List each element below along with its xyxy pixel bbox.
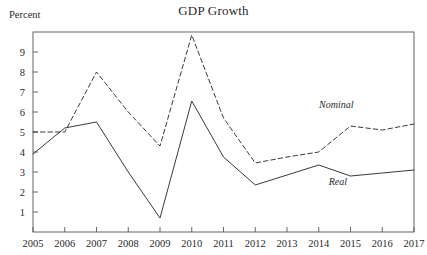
y-tick-label: 9 (20, 47, 25, 58)
chart-plot-area: 123456789 200520062007200820092010201120… (0, 0, 427, 255)
y-tick-label: 2 (20, 187, 25, 198)
x-tick-label: 2016 (372, 238, 393, 249)
y-tick-label: 8 (20, 67, 25, 78)
y-tick-label: 6 (20, 107, 25, 118)
y-tick-label: 3 (20, 167, 25, 178)
x-tick-label: 2014 (308, 238, 330, 249)
x-axis-ticks: 2005200620072008200920102011201220132014… (23, 227, 425, 249)
x-tick-label: 2015 (340, 238, 361, 249)
x-tick-label: 2012 (245, 238, 266, 249)
y-tick-label: 5 (20, 127, 25, 138)
x-tick-label: 2017 (404, 238, 425, 249)
y-tick-label: 1 (20, 207, 25, 218)
series-annotations: NominalReal (318, 99, 354, 187)
y-tick-label: 7 (20, 87, 25, 98)
axes-frame (33, 32, 414, 232)
x-tick-label: 2011 (213, 238, 234, 249)
x-tick-label: 2008 (118, 238, 139, 249)
x-tick-label: 2005 (23, 238, 44, 249)
x-tick-label: 2009 (150, 238, 171, 249)
x-tick-label: 2006 (54, 238, 75, 249)
series-label-real: Real (328, 176, 348, 187)
y-tick-label: 4 (20, 147, 26, 158)
gdp-growth-chart-figure: Percent GDP Growth 123456789 20052006200… (0, 0, 427, 255)
series-label-nominal: Nominal (318, 99, 354, 110)
series-line-nominal (33, 35, 414, 163)
x-tick-label: 2010 (181, 238, 202, 249)
x-tick-label: 2013 (277, 238, 298, 249)
x-tick-label: 2007 (86, 238, 107, 249)
data-series-lines (33, 35, 414, 218)
